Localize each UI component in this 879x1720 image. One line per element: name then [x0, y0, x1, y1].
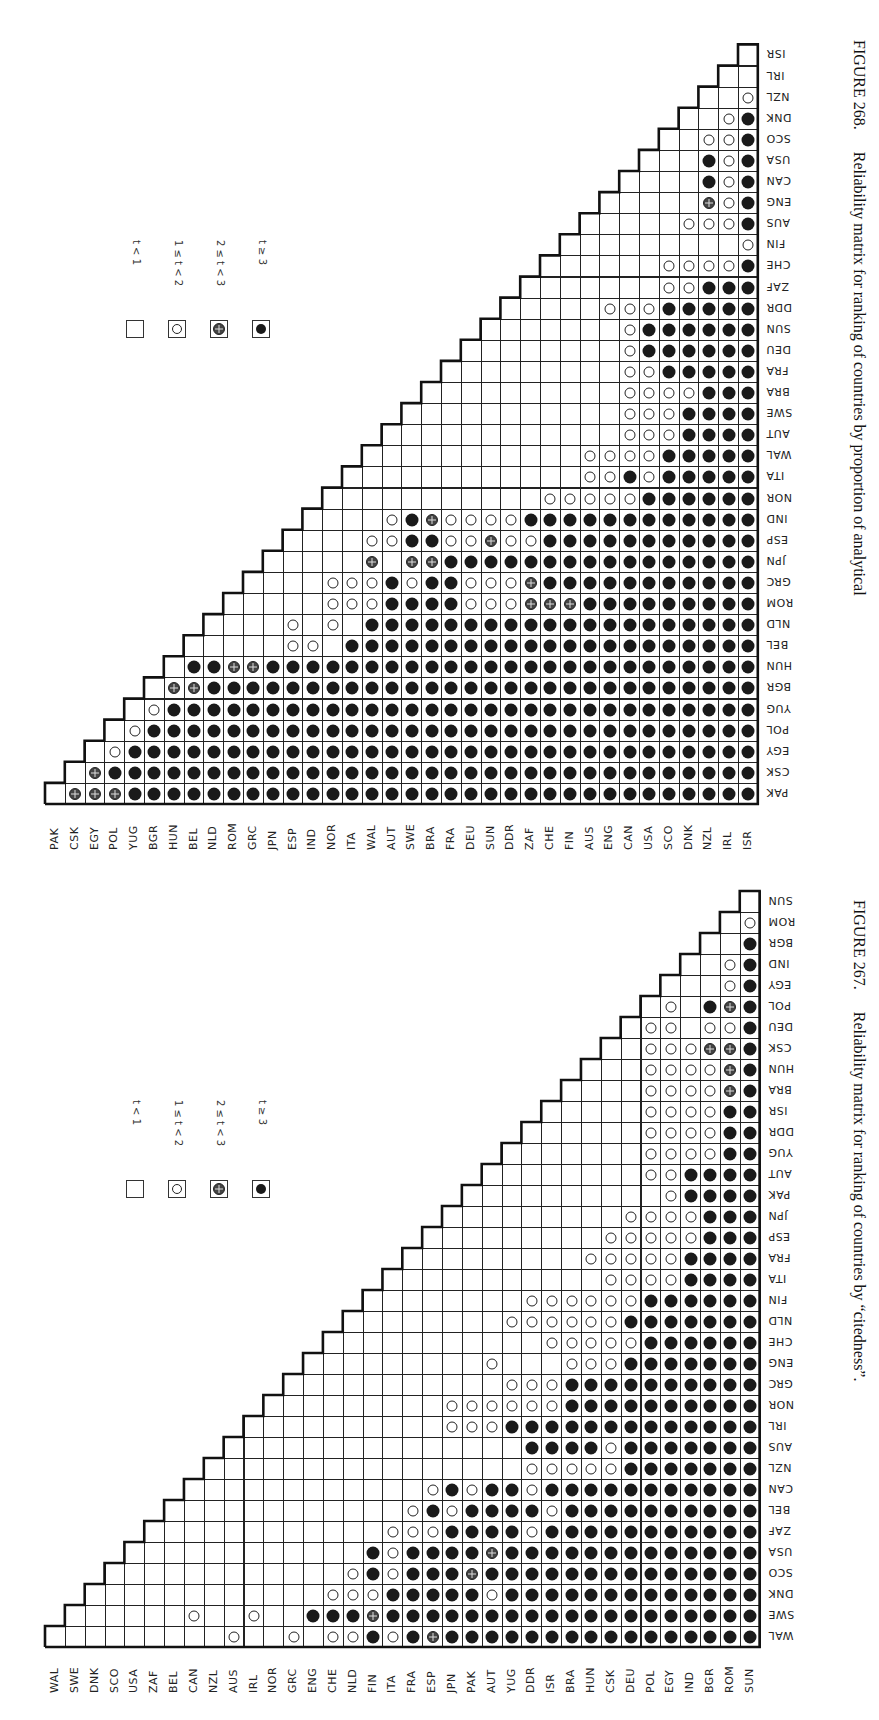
filled-circle-icon [128, 745, 141, 758]
matrix-cell [482, 1605, 503, 1627]
filled-circle-icon [585, 1400, 598, 1413]
column-label: BEL [167, 1671, 180, 1693]
matrix-cell [164, 762, 185, 784]
matrix-cell [342, 551, 363, 573]
crossed-circle-icon [525, 577, 537, 589]
filled-circle-icon [605, 1610, 618, 1623]
filled-circle-icon [425, 724, 438, 737]
filled-circle-icon [227, 766, 240, 779]
matrix-cell [720, 954, 741, 976]
matrix-cell [700, 975, 721, 997]
filled-circle-icon [585, 1568, 598, 1581]
filled-circle-icon [168, 703, 181, 716]
matrix-cell [581, 1605, 602, 1627]
filled-circle-icon [286, 724, 299, 737]
open-circle-icon [348, 1632, 359, 1643]
matrix-cell [382, 741, 403, 763]
filled-circle-icon [744, 1295, 757, 1308]
matrix-cell [718, 171, 739, 193]
column-label: ITA [385, 1675, 398, 1693]
filled-circle-icon [663, 598, 676, 611]
matrix-cell [560, 403, 581, 425]
matrix-cell [659, 677, 680, 699]
matrix-cell [621, 1122, 642, 1144]
matrix-cell [599, 277, 620, 299]
filled-circle-icon [663, 661, 676, 674]
filled-circle-icon [663, 302, 676, 315]
matrix-cell [362, 445, 383, 467]
matrix-cell [619, 298, 640, 320]
matrix-cell [521, 1143, 542, 1165]
filled-circle-icon [425, 534, 438, 547]
matrix-cell [482, 1500, 503, 1522]
filled-circle-icon [168, 724, 181, 737]
filled-circle-icon [722, 661, 735, 674]
open-circle-icon [665, 1065, 676, 1076]
open-circle-icon [645, 1086, 656, 1097]
matrix-cell [560, 677, 581, 699]
filled-circle-icon [722, 745, 735, 758]
matrix-cell [481, 488, 502, 510]
open-circle-icon [487, 1590, 498, 1601]
filled-circle-icon [704, 1232, 717, 1245]
filled-circle-icon [742, 429, 755, 442]
matrix-cell [144, 720, 165, 742]
open-circle-icon [606, 1254, 617, 1265]
filled-circle-icon [623, 513, 636, 526]
filled-circle-icon [722, 281, 735, 294]
matrix-cell [382, 1437, 403, 1459]
matrix-cell [580, 699, 601, 721]
matrix-cell [561, 1143, 582, 1165]
open-circle-icon [705, 1107, 716, 1118]
filled-circle-icon [367, 1568, 380, 1581]
filled-circle-icon [207, 661, 220, 674]
matrix-cell [700, 1458, 721, 1480]
filled-circle-icon [724, 1463, 737, 1476]
filled-circle-icon [405, 766, 418, 779]
filled-circle-icon [682, 640, 695, 653]
matrix-cell [104, 762, 125, 784]
open-circle-icon [723, 219, 734, 230]
filled-circle-icon [286, 745, 299, 758]
filled-circle-icon [744, 1442, 757, 1455]
filled-circle-icon [366, 703, 379, 716]
filled-circle-icon [722, 682, 735, 695]
matrix-cell [421, 530, 442, 552]
open-circle-icon [546, 1506, 557, 1517]
filled-circle-icon [684, 1463, 697, 1476]
column-label: ROM [226, 823, 239, 850]
crossed-circle-icon [724, 1085, 736, 1097]
filled-circle-icon [446, 1568, 459, 1581]
filled-circle-icon [326, 766, 339, 779]
column-label: GRC [246, 825, 259, 850]
matrix-cell [660, 1269, 681, 1291]
open-circle-icon [565, 493, 576, 504]
filled-circle-icon [682, 534, 695, 547]
matrix-cell [698, 361, 719, 383]
matrix-cell [442, 1563, 463, 1585]
matrix-cell [599, 530, 620, 552]
open-circle-icon [645, 1254, 656, 1265]
filled-circle-icon [684, 1253, 697, 1266]
matrix-cell [363, 1584, 384, 1606]
filled-circle-icon [643, 492, 656, 505]
matrix-cell [402, 1521, 423, 1543]
matrix-cell [740, 1584, 761, 1606]
matrix-cell [738, 783, 759, 805]
matrix-cell [203, 699, 224, 721]
matrix-cell [561, 1626, 582, 1648]
matrix-cell [263, 656, 284, 678]
matrix-cell [621, 1353, 642, 1375]
filled-circle-icon [486, 1568, 499, 1581]
matrix-cell [738, 129, 759, 151]
open-circle-icon [487, 1422, 498, 1433]
filled-circle-icon [625, 1379, 638, 1392]
filled-circle-icon [405, 534, 418, 547]
column-label: USA [127, 1669, 140, 1693]
matrix-cell [422, 1290, 443, 1312]
matrix-cell [601, 1038, 622, 1060]
filled-circle-icon [644, 1400, 657, 1413]
matrix-cell [639, 234, 660, 256]
filled-circle-icon [445, 682, 458, 695]
matrix-cell [441, 551, 462, 573]
